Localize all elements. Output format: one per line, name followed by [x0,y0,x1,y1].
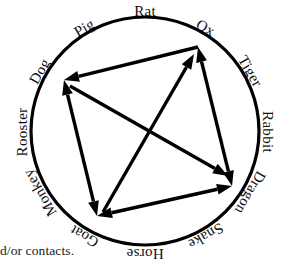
arrow-goat-to-dragon-shaft [112,189,218,212]
zodiac-ring [31,17,259,245]
zodiac-label-pig: Pig [71,15,97,39]
arrow-diagonal-goat-ox [103,54,194,212]
arrow-diagonal-goat-ox-end-head-icon [182,54,194,70]
zodiac-diagram: RatOxTigerRabbitDragonSnakeHorseGoatMonk… [0,0,291,269]
zodiac-label-ox: Ox [194,16,219,39]
zodiac-label-rat: Rat [134,3,156,19]
relationship-arrow-group [62,47,234,218]
arrow-dog-to-goat-end-head-icon [88,200,99,216]
zodiac-label-snake: Snake [185,220,226,253]
arrow-ox-to-dog-end-head-icon [64,71,80,82]
zodiac-ring-circle [31,17,259,245]
zodiac-label-rooster: Rooster [14,108,30,157]
arrow-diagonal-goat-ox-shaft [103,67,187,212]
zodiac-label-horse: Horse [126,246,163,262]
arrow-goat-to-dragon-end-head-icon [216,184,232,195]
zodiac-label-rabbit: Rabbit [260,111,276,153]
arrow-diagonal-dog-dragon-shaft [70,86,215,169]
arrow-dragon-to-ox-shaft [202,62,229,172]
page-caption-fragment: d/or contacts. [0,243,74,259]
zodiac-label-tiger: Tiger [235,53,266,90]
arrow-dragon-to-ox [196,47,234,186]
zodiac-label-group: RatOxTigerRabbitDragonSnakeHorseGoatMonk… [14,3,275,261]
arrow-dog-to-goat-shaft [68,95,94,202]
zodiac-diagram-canvas: RatOxTigerRabbitDragonSnakeHorseGoatMonk… [0,0,291,269]
arrow-ox-to-dog-shaft [79,47,198,76]
arrow-ox-to-dog [64,47,198,82]
arrow-dragon-to-ox-end-head-icon [196,47,207,63]
